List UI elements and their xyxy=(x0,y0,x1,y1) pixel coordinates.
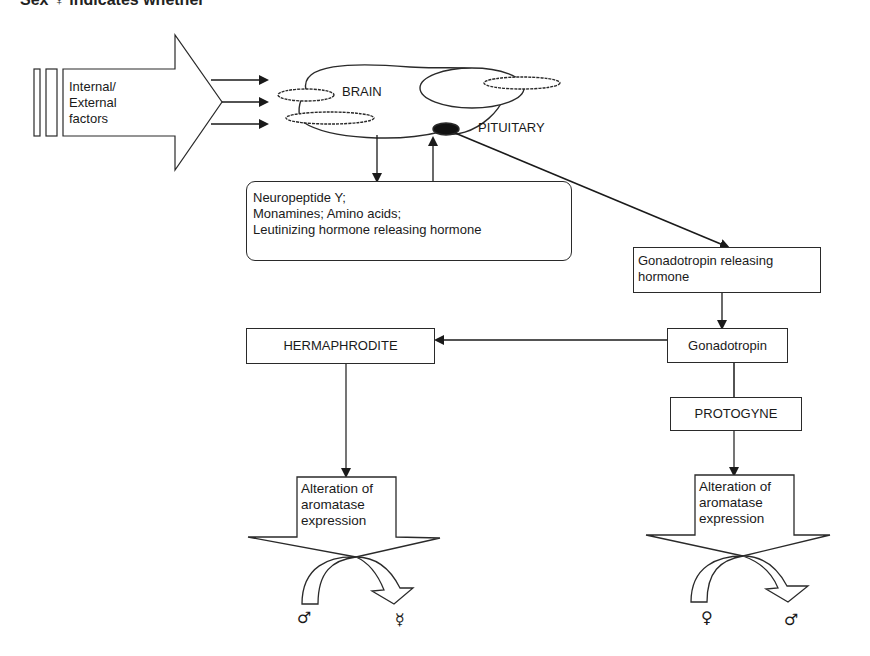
brain-fold-left-bottom xyxy=(286,112,374,124)
right-outcome-line-1: Alteration of xyxy=(699,479,771,495)
input-label-line-3: factors xyxy=(69,111,117,127)
neurotransmitter-box: Neuropeptide Y; Monamines; Amino acids; … xyxy=(246,181,572,261)
brain-fold-right xyxy=(484,77,560,89)
male-symbol-icon-right: ♂ xyxy=(784,610,798,629)
gonadotropin-label: Gonadotropin xyxy=(688,338,767,354)
protogyne-label: PROTOGYNE xyxy=(695,406,778,422)
left-curve-to-male xyxy=(302,557,356,604)
input-label-line-2: External xyxy=(69,95,117,111)
stripe-2 xyxy=(46,69,57,136)
gnrh-line-1: Gonadotropin releasing xyxy=(638,253,816,269)
right-curve-to-female xyxy=(691,556,743,602)
left-curve-to-hermaphrodite xyxy=(356,557,413,604)
left-outcome-line-2: aromatase xyxy=(301,497,373,513)
right-outcome-label: Alteration of aromatase expression xyxy=(699,479,771,527)
male-symbol-icon: ♂ xyxy=(297,608,311,627)
input-factors-arrow xyxy=(34,35,222,170)
neuro-line-2: Monamines; Amino acids; xyxy=(253,206,565,222)
female-symbol-icon: ♀ xyxy=(701,608,713,627)
gnrh-line-2: hormone xyxy=(638,269,816,285)
stripe-1 xyxy=(34,69,40,136)
right-outcome-line-3: expression xyxy=(699,511,771,527)
protogyne-box: PROTOGYNE xyxy=(670,397,802,431)
hermaphrodite-box: HERMAPHRODITE xyxy=(246,328,435,364)
brain-fold-left-top xyxy=(278,89,334,101)
right-curve-to-male xyxy=(743,556,808,602)
gnrh-box: Gonadotropin releasing hormone xyxy=(633,247,821,293)
hermaphrodite-symbol-icon: ☿ xyxy=(395,610,405,629)
gonadotropin-box: Gonadotropin xyxy=(667,328,788,363)
neuro-line-3: Leutinizing hormone releasing hormone xyxy=(253,222,565,238)
hermaphrodite-label: HERMAPHRODITE xyxy=(283,338,397,354)
input-label-line-1: Internal/ xyxy=(69,79,117,95)
left-outcome-line-3: expression xyxy=(301,513,373,529)
pituitary-label: PITUITARY xyxy=(478,120,545,136)
left-outcome-line-1: Alteration of xyxy=(301,481,373,497)
right-outcome-line-2: aromatase xyxy=(699,495,771,511)
input-factors-label: Internal/ External factors xyxy=(69,79,117,127)
neuro-line-1: Neuropeptide Y; xyxy=(253,190,565,206)
brain-label: BRAIN xyxy=(342,84,382,100)
left-outcome-label: Alteration of aromatase expression xyxy=(301,481,373,529)
